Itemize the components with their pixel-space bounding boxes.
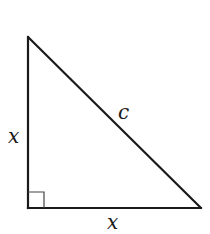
label-bottom-leg: x xyxy=(107,210,118,234)
right-angle-marker xyxy=(28,192,44,208)
label-left-leg: x xyxy=(8,124,19,148)
label-hypotenuse: c xyxy=(118,100,129,124)
right-triangle-diagram: x x c xyxy=(0,0,210,234)
hypotenuse xyxy=(28,37,201,208)
